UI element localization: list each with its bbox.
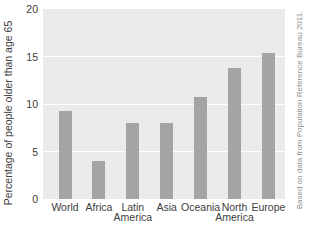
x-category-label-europe: Europe (251, 202, 285, 212)
gridline-15 (43, 56, 285, 57)
x-category-label-world: World (51, 202, 78, 212)
bar-world (59, 111, 72, 199)
x-category-label-asia: Asia (156, 202, 176, 212)
y-tick-label-0: 0 (0, 193, 38, 205)
gridline-10 (43, 104, 285, 105)
bar-oceania (194, 97, 207, 199)
plot-area (43, 9, 285, 199)
aging-population-bar-chart: Percentage of people older than age 65 0… (0, 0, 310, 231)
bar-asia (160, 123, 173, 199)
source-note: Based on data from Population Reference … (295, 11, 304, 210)
bar-latin-america (126, 123, 139, 199)
x-category-label-north-america: North America (215, 202, 254, 222)
bar-north-america (228, 68, 241, 199)
bar-africa (92, 161, 105, 199)
bar-europe (262, 53, 275, 199)
x-category-label-africa: Africa (85, 202, 112, 212)
y-tick-label-10: 10 (0, 98, 38, 110)
y-tick-label-20: 20 (0, 3, 38, 15)
x-category-label-latin-america: Latin America (114, 202, 153, 222)
y-axis-title: Percentage of people older than age 65 (2, 21, 14, 205)
y-tick-label-15: 15 (0, 51, 38, 63)
y-tick-label-5: 5 (0, 146, 38, 158)
